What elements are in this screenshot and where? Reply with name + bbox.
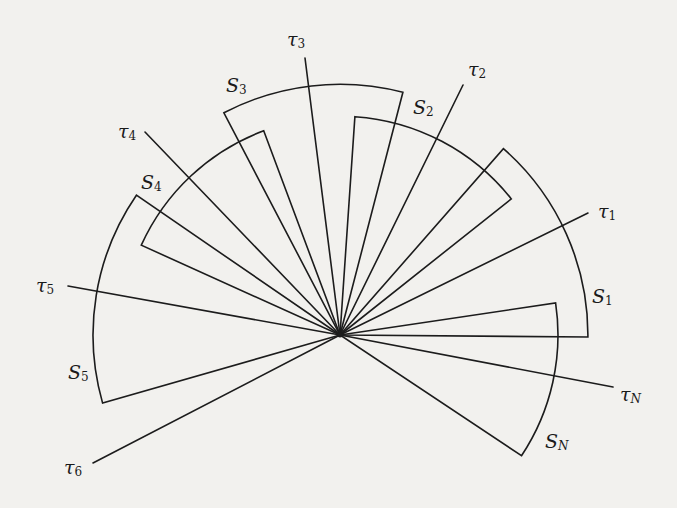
rays-group	[68, 58, 613, 463]
label-symbol: τ	[64, 456, 75, 478]
sector-s2	[340, 117, 511, 335]
label-subscript: N	[631, 392, 642, 406]
label-symbol: τ	[468, 58, 479, 80]
label-subscript: 4	[129, 129, 137, 143]
tau-2-ray	[340, 85, 463, 335]
tau-6-ray	[93, 335, 340, 463]
label-subscript: N	[558, 439, 569, 453]
tau-4-label: τ4	[118, 122, 136, 141]
tau-1-label: τ1	[598, 202, 616, 221]
tau-3-label: τ3	[287, 30, 305, 49]
tau-2-label: τ2	[468, 60, 486, 79]
label-symbol: S	[413, 96, 426, 118]
sector-s4-label: S4	[141, 173, 162, 192]
label-symbol: S	[226, 74, 239, 96]
sector-s5	[93, 195, 340, 403]
label-symbol: S	[68, 361, 81, 383]
label-subscript: 3	[239, 83, 247, 97]
center-point	[338, 333, 343, 338]
label-subscript: 1	[609, 209, 617, 223]
label-subscript: 3	[298, 37, 306, 51]
tau-6-label: τ6	[64, 458, 82, 477]
label-subscript: 6	[75, 465, 83, 479]
label-symbol: S	[141, 171, 154, 193]
tau-3-ray	[305, 58, 340, 335]
sector-ray-diagram	[0, 0, 677, 508]
tau-n-ray	[340, 335, 613, 387]
label-symbol: S	[592, 285, 605, 307]
sector-sn	[340, 303, 558, 456]
label-subscript: 2	[426, 105, 434, 119]
label-symbol: S	[545, 430, 558, 452]
sector-s2-label: S2	[413, 98, 434, 117]
sector-s5-label: S5	[68, 363, 89, 382]
label-symbol: τ	[118, 120, 129, 142]
label-symbol: τ	[620, 383, 631, 405]
label-symbol: τ	[287, 28, 298, 50]
sector-s1-label: S1	[592, 287, 613, 306]
label-subscript: 4	[154, 180, 162, 194]
sector-s1	[340, 149, 588, 337]
label-subscript: 5	[47, 283, 55, 297]
tau-n-label: τN	[620, 385, 641, 404]
figure-page: τ1τ2τ3τ4τ5τ6τNS1S2S3S4S5SN	[0, 0, 677, 508]
sector-sn-label: SN	[545, 432, 569, 451]
tau-5-label: τ5	[36, 276, 54, 295]
sectors-group	[93, 84, 588, 455]
label-subscript: 5	[81, 370, 89, 384]
label-subscript: 2	[479, 67, 487, 81]
sector-s3-label: S3	[226, 76, 247, 95]
label-symbol: τ	[598, 200, 609, 222]
label-subscript: 1	[605, 294, 613, 308]
label-symbol: τ	[36, 274, 47, 296]
